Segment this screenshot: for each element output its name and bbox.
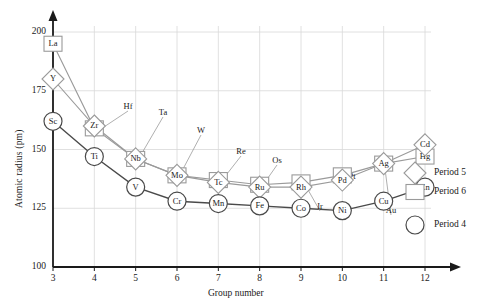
- y-tick-label: 150: [18, 144, 46, 154]
- series-line-period-4: [53, 121, 425, 210]
- x-tick-label: 5: [126, 273, 146, 283]
- data-point-label-Fe: Fe: [255, 200, 264, 210]
- x-tick-label: 4: [84, 273, 104, 283]
- data-point-label-Ru: Ru: [255, 182, 266, 192]
- x-axis-arrowhead: [450, 263, 461, 272]
- data-point-label-Y: Y: [50, 73, 56, 83]
- callout-label-Ta: Ta: [159, 107, 168, 117]
- legend-marker-period-6: [406, 185, 424, 200]
- y-tick-label: 175: [18, 85, 46, 95]
- data-point-label-Ti: Ti: [91, 151, 99, 161]
- data-point-label-Cd: Cd: [420, 139, 431, 149]
- x-axis-label: Group number: [208, 288, 264, 298]
- x-tick-label: 12: [415, 273, 435, 283]
- legend-markers: [404, 162, 426, 234]
- callout-label-Re: Re: [236, 146, 246, 156]
- callout-label-Hf: Hf: [124, 101, 133, 111]
- callout-label-Ir: Ir: [317, 201, 323, 211]
- y-tick-label: 100: [18, 261, 46, 271]
- data-point-label-Ag: Ag: [378, 158, 389, 168]
- plot-surface: HfTaWReOsIrPtAuLaHfTaWReOsIrPtAuHgYZrNbM…: [0, 0, 487, 307]
- y-tick-label: 200: [18, 26, 46, 36]
- y-tick-label: 125: [18, 202, 46, 212]
- legend-label-period-4: Period 4: [434, 219, 466, 229]
- y-axis-arrowhead: [49, 10, 58, 21]
- data-point-label-Tc: Tc: [214, 177, 223, 187]
- data-point-label-Nb: Nb: [130, 153, 140, 163]
- x-tick-label: 11: [374, 273, 394, 283]
- x-tick-label: 9: [291, 273, 311, 283]
- series-markers-period-6: LaHfTaWReOsIrPtAuHg: [44, 36, 434, 192]
- data-point-label-V: V: [133, 182, 140, 192]
- callout-label-Os: Os: [272, 155, 281, 165]
- data-point-label-La: La: [49, 38, 58, 48]
- data-point-label-Co: Co: [296, 203, 306, 213]
- x-tick-label: 10: [332, 273, 352, 283]
- x-tick-label: 3: [43, 273, 63, 283]
- data-point-label-Mn: Mn: [212, 198, 225, 208]
- data-point-label-Cu: Cu: [379, 196, 390, 206]
- data-point-label-Zr: Zr: [90, 120, 98, 130]
- data-point-label-Ni: Ni: [338, 205, 347, 215]
- data-point-label-Sc: Sc: [49, 116, 58, 126]
- x-tick-label: 6: [167, 273, 187, 283]
- legend-label-period-6: Period 6: [434, 186, 466, 196]
- data-point-label-Cr: Cr: [173, 196, 182, 206]
- atomic-radius-chart: HfTaWReOsIrPtAuLaHfTaWReOsIrPtAuHgYZrNbM…: [0, 0, 487, 307]
- legend-label-period-5: Period 5: [434, 167, 466, 177]
- y-axis-label: Atomic radius (pm): [14, 129, 24, 208]
- data-point-label-Pd: Pd: [338, 175, 348, 185]
- data-point-label-Mo: Mo: [171, 170, 183, 180]
- series-line-period-6: [53, 44, 425, 185]
- legend-marker-period-4: [406, 216, 424, 234]
- x-tick-label: 7: [208, 273, 228, 283]
- data-point-label-Rh: Rh: [296, 182, 307, 192]
- series-line-period-5: [53, 79, 425, 187]
- callout-label-W: W: [197, 125, 205, 135]
- x-tick-label: 8: [250, 273, 270, 283]
